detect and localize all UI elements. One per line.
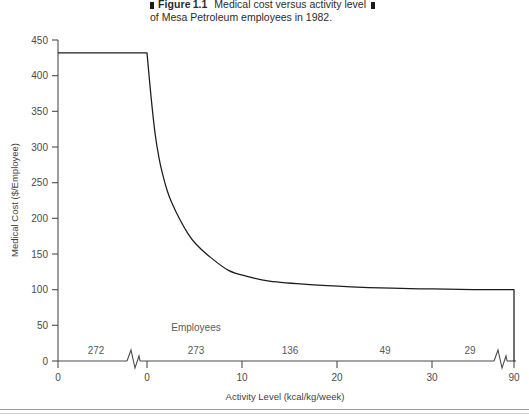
employee-count-label: 29 — [464, 345, 476, 356]
x-axis-tick-labels: 0 0 10 20 30 90 — [55, 372, 520, 383]
employee-count-label: 273 — [188, 345, 205, 356]
x-axis-title: Activity Level (kcal/kg/week) — [226, 391, 345, 402]
figure-container: Figure1.1Medical cost versus activity le… — [0, 0, 529, 418]
employee-count-label: 272 — [88, 345, 105, 356]
y-axis-ticks — [52, 40, 58, 361]
y-tick-label: 350 — [31, 106, 48, 117]
y-tick-label: 50 — [37, 320, 49, 331]
axis-break-left-icon — [127, 350, 140, 368]
x-tick-label: 30 — [426, 372, 438, 383]
axis-break-right-icon — [494, 350, 507, 368]
employee-count-label: 136 — [282, 345, 299, 356]
y-axis-tick-labels: 450 400 350 300 250 200 150 100 50 0 — [31, 35, 48, 367]
y-tick-label: 250 — [31, 177, 48, 188]
x-tick-label: 0 — [55, 372, 61, 383]
x-tick-label: 0 — [144, 372, 150, 383]
y-axis-title: Medical Cost ($/Employee) — [9, 143, 20, 257]
medical-cost-curve — [58, 53, 514, 361]
y-tick-label: 400 — [31, 70, 48, 81]
x-axis-ticks — [58, 361, 514, 368]
x-tick-label: 20 — [331, 372, 343, 383]
employee-count-label: 49 — [379, 345, 391, 356]
x-tick-label: 10 — [236, 372, 248, 383]
y-tick-label: 0 — [42, 356, 48, 367]
page-rule-lower — [0, 413, 529, 414]
employee-counts-row: 272 273 136 49 29 — [88, 345, 476, 356]
employees-counts-header: Employees — [171, 322, 220, 333]
chart-plot-area: 450 400 350 300 250 200 150 100 50 0 Med… — [0, 0, 529, 418]
page-rule-upper — [0, 409, 529, 410]
y-tick-label: 300 — [31, 142, 48, 153]
y-tick-label: 150 — [31, 249, 48, 260]
y-tick-label: 450 — [31, 35, 48, 46]
y-tick-label: 100 — [31, 284, 48, 295]
x-tick-label: 90 — [508, 372, 520, 383]
y-tick-label: 200 — [31, 213, 48, 224]
